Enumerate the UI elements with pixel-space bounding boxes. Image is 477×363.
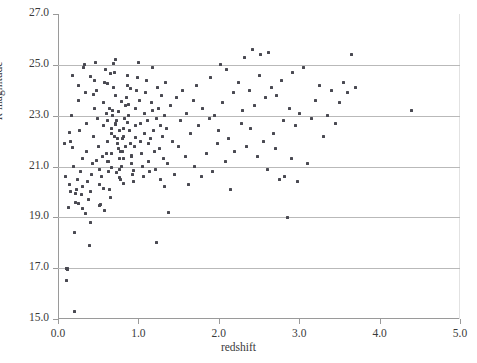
y-tick-label-17.0: 17.0 [29,260,49,272]
data-point [233,150,236,153]
data-point [146,119,149,122]
data-point [111,114,114,117]
data-point [108,107,111,110]
data-point [216,142,219,145]
data-point [75,188,78,191]
data-point [117,110,120,113]
data-point [149,137,152,140]
data-point [184,155,187,158]
data-point [134,124,137,127]
data-point [88,244,91,247]
data-point [113,135,116,138]
data-point [290,157,293,160]
data-point [296,180,299,183]
data-point [192,99,195,102]
data-point [286,216,289,219]
data-point [85,122,88,125]
data-point [169,104,172,107]
data-point [144,91,147,94]
data-point [151,109,154,112]
data-point [73,231,76,234]
data-point [229,188,232,191]
data-point [80,193,83,196]
data-point [112,62,115,65]
scatter-chart-figure: 15.017.019.021.023.025.027.0 0.01.02.03.… [0,0,477,363]
data-point [134,136,137,139]
data-point [166,162,169,165]
data-point [119,150,122,153]
data-point [139,140,142,143]
data-point [256,155,259,158]
data-point [84,212,87,215]
data-point [179,119,182,122]
data-point [318,84,321,87]
data-point [68,131,71,134]
data-point [110,127,113,130]
data-point [127,114,130,117]
data-point [151,66,154,69]
data-point [71,74,74,77]
data-point [92,135,95,138]
data-point [334,122,337,125]
data-point [135,89,138,92]
data-point [294,124,297,127]
y-tick-21.0 [53,167,58,168]
data-point [93,107,96,110]
data-point [177,145,180,148]
data-point [105,112,108,115]
data-point [209,76,212,79]
data-point [122,127,125,130]
data-point [241,109,244,112]
data-point [245,145,248,148]
data-point [205,152,208,155]
data-point [108,188,111,191]
data-point [140,152,143,155]
data-point [253,104,256,107]
data-point [298,112,301,115]
data-point [266,168,269,171]
data-point [98,183,101,186]
data-point [122,182,125,185]
data-point [110,152,113,155]
data-point [87,198,90,201]
y-tick-label-23.0: 23.0 [29,108,49,120]
data-point [153,150,156,153]
data-point [278,178,281,181]
data-point [114,58,117,61]
data-point [102,124,105,127]
data-point [156,86,159,89]
data-point [107,160,110,163]
data-point [77,99,80,102]
y-tick-19.0 [53,217,58,218]
x-tick-1.0 [138,319,139,324]
data-point [158,147,161,150]
gridline-y-19.0 [58,217,460,218]
data-point [73,310,76,313]
data-point [127,103,130,106]
data-point [70,114,73,117]
data-point [93,79,96,82]
data-point [100,175,103,178]
data-point [150,101,153,104]
data-point [274,147,277,150]
data-point [126,84,129,87]
data-point [237,81,240,84]
x-tick-0.0 [58,319,59,324]
data-point [155,117,158,120]
data-point [74,192,77,195]
data-point [95,159,98,162]
data-point [143,132,146,135]
x-tick-label-5.0: 5.0 [430,327,477,339]
y-axis-label: R magnitude [0,62,4,120]
data-point [90,173,93,176]
data-point [129,87,132,90]
x-tick-5.0 [460,319,461,324]
data-point [175,96,178,99]
data-point [217,129,220,132]
data-point [225,68,228,71]
y-tick-25.0 [53,65,58,66]
data-point [105,152,108,155]
y-tick-23.0 [53,116,58,117]
data-point [113,71,116,74]
data-point [124,145,127,148]
